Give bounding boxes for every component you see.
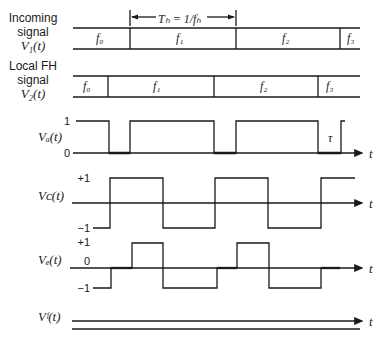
incoming-signal-band <box>73 28 360 49</box>
ve-waveform <box>70 243 362 288</box>
vc-waveform <box>72 178 362 228</box>
hop-period-dimension <box>130 10 236 26</box>
local-fh-signal-band <box>73 76 360 97</box>
vf-waveform <box>72 321 362 329</box>
vd-waveform <box>73 121 362 153</box>
waveform-canvas <box>0 0 388 343</box>
